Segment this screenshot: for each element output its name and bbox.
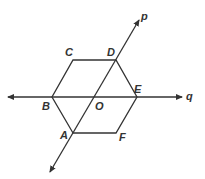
label-a: A [60, 130, 68, 141]
label-o: O [95, 101, 104, 112]
line-p-lower [50, 97, 94, 172]
label-b: B [42, 101, 50, 112]
label-p: p [141, 11, 148, 22]
diagram-canvas [0, 0, 205, 179]
label-q: q [186, 91, 193, 102]
label-e: E [134, 84, 141, 95]
line-p [94, 20, 139, 97]
label-c: C [65, 47, 73, 58]
label-f: F [119, 132, 126, 143]
label-d: D [107, 47, 115, 58]
hexagon-diagram: C D B O E A F p q [0, 0, 205, 179]
